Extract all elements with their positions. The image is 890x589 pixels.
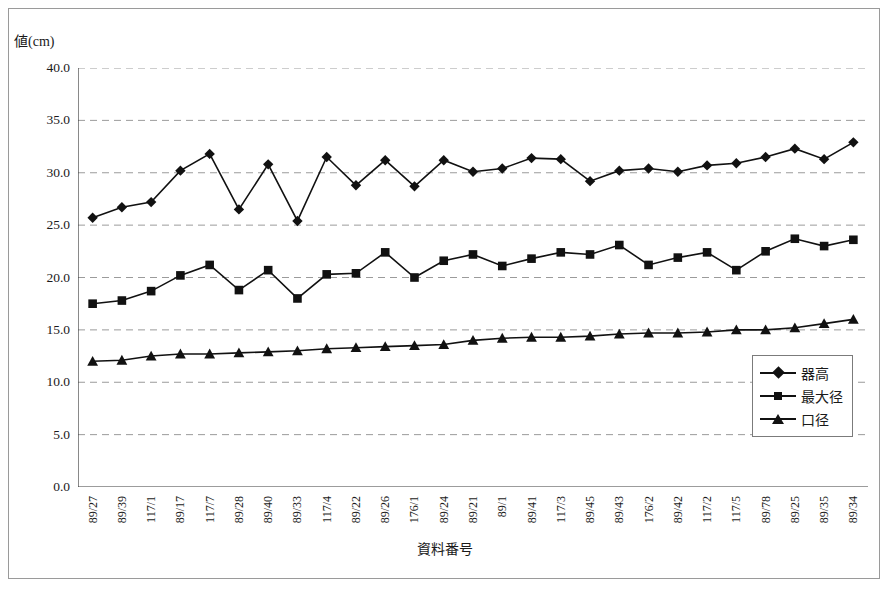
x-axis-tick-label: 89/17 <box>173 496 188 523</box>
data-point <box>264 266 273 275</box>
data-point <box>614 165 624 175</box>
x-axis-tick-label: 117/5 <box>729 496 744 523</box>
x-axis-tick-label: 89/40 <box>261 496 276 523</box>
data-point <box>469 250 478 259</box>
legend-label: 最大径 <box>801 386 843 406</box>
data-point <box>381 248 390 257</box>
y-axis-tick-label: 30.0 <box>14 165 70 181</box>
y-axis-tick-label: 35.0 <box>14 112 70 128</box>
data-point <box>732 266 741 275</box>
data-point <box>703 248 712 257</box>
x-axis-tick-label: 89/24 <box>437 496 452 523</box>
data-point <box>205 261 214 270</box>
data-point <box>615 241 624 250</box>
data-point <box>790 143 800 153</box>
x-axis-tick-label: 89/33 <box>290 496 305 523</box>
x-axis-tick-label: 89/26 <box>378 496 393 523</box>
data-point <box>527 254 536 263</box>
x-axis-tick-label: 89/41 <box>525 496 540 523</box>
y-axis-tick-label: 40.0 <box>14 60 70 76</box>
data-point <box>293 294 302 303</box>
data-point <box>848 137 858 147</box>
data-point <box>439 256 448 265</box>
square-marker-icon <box>760 389 796 403</box>
data-point <box>819 154 829 164</box>
x-axis-tick-label: 117/1 <box>144 496 159 523</box>
x-axis-tick-label: 89/27 <box>86 496 101 523</box>
data-point <box>674 253 683 262</box>
diamond-marker-icon <box>760 366 796 380</box>
legend-item-器高[interactable]: 器高 <box>760 361 843 384</box>
x-axis-tick-label: 176/2 <box>642 496 657 523</box>
chart-container: 値(cm) 資料番号 40.035.030.025.020.015.010.05… <box>0 0 890 589</box>
data-point <box>88 299 97 308</box>
x-axis-tick-label: 89/35 <box>817 496 832 523</box>
x-axis-tick-label: 89/28 <box>232 496 247 523</box>
x-axis-tick-label: 89/45 <box>583 496 598 523</box>
data-point <box>410 273 419 282</box>
x-axis-tick-label: 89/39 <box>115 496 130 523</box>
data-point <box>644 261 653 270</box>
legend: 器高最大径口径 <box>752 355 853 437</box>
x-axis-tick-label: 89/78 <box>759 496 774 523</box>
legend-item-最大径[interactable]: 最大径 <box>760 384 843 407</box>
y-axis-tick-label: 10.0 <box>14 374 70 390</box>
data-point <box>235 286 244 295</box>
data-point <box>498 262 507 271</box>
data-point <box>176 271 185 280</box>
data-point <box>263 159 273 169</box>
y-axis-tick-label: 25.0 <box>14 217 70 233</box>
data-point <box>820 242 829 251</box>
x-axis-tick-label: 117/3 <box>554 496 569 523</box>
data-point <box>760 152 770 162</box>
data-point <box>556 248 565 257</box>
data-point <box>87 213 97 223</box>
plot-area <box>78 68 868 487</box>
data-point <box>586 250 595 259</box>
legend-item-口径[interactable]: 口径 <box>760 407 843 430</box>
x-axis-tick-label: 117/2 <box>700 496 715 523</box>
x-axis-tick-label: 89/22 <box>349 496 364 523</box>
data-point <box>322 270 331 279</box>
x-axis-tick-label: 176/1 <box>407 496 422 523</box>
x-axis-title: 資料番号 <box>0 538 890 558</box>
data-point <box>234 204 244 214</box>
data-point <box>731 158 741 168</box>
data-point <box>643 163 653 173</box>
data-point <box>761 247 770 256</box>
legend-label: 口径 <box>801 409 829 429</box>
legend-label: 器高 <box>801 363 829 383</box>
x-axis-tick-label: 89/25 <box>788 496 803 523</box>
y-axis-tick-label: 20.0 <box>14 270 70 286</box>
y-axis-title: 値(cm) <box>14 30 54 50</box>
y-axis-tick-label: 15.0 <box>14 322 70 338</box>
data-point <box>204 149 214 159</box>
x-axis-tick-label: 89/43 <box>612 496 627 523</box>
data-point <box>848 314 859 324</box>
x-axis-tick-label: 117/4 <box>320 496 335 523</box>
data-point <box>352 269 361 278</box>
data-point <box>526 153 536 163</box>
data-point <box>849 235 858 244</box>
data-point <box>117 202 127 212</box>
x-axis-tick-label: 89/42 <box>671 496 686 523</box>
data-point <box>468 167 478 177</box>
y-axis-tick-label: 0.0 <box>14 479 70 495</box>
x-axis-tick-label: 89/34 <box>846 496 861 523</box>
data-point <box>118 296 127 305</box>
x-axis-tick-label: 117/7 <box>203 496 218 523</box>
data-point <box>147 287 156 296</box>
triangle-marker-icon <box>760 412 796 426</box>
data-point <box>497 163 507 173</box>
data-point <box>673 167 683 177</box>
x-axis-tick-label: 89/21 <box>466 496 481 523</box>
plot-svg <box>78 68 868 487</box>
x-axis-tick-label: 89/1 <box>495 496 510 517</box>
y-axis-tick-label: 5.0 <box>14 427 70 443</box>
data-point <box>292 216 302 226</box>
data-point <box>791 234 800 243</box>
data-point <box>702 160 712 170</box>
